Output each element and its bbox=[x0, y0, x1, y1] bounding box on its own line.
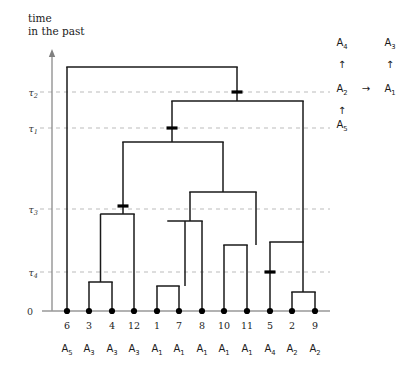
leaf-number-9: 9 bbox=[312, 320, 318, 331]
leaf-dot-7[interactable] bbox=[176, 308, 182, 314]
leaf-dot-8[interactable] bbox=[199, 308, 205, 314]
leaf-allele-9: A2 bbox=[309, 343, 320, 357]
allele-node-A1: A1 bbox=[384, 83, 395, 97]
leaf-dot-9[interactable] bbox=[312, 308, 318, 314]
leaf-dot-12[interactable] bbox=[131, 308, 137, 314]
dendrogram-figure: time in the past τ2τ1τ3τ4 0 6A53A34A312A… bbox=[0, 0, 406, 367]
leaf-dot-5[interactable] bbox=[267, 308, 273, 314]
leaf-number-1: 1 bbox=[154, 320, 160, 331]
leaf-number-10: 10 bbox=[218, 320, 230, 331]
allele-node-A5: A5 bbox=[336, 119, 347, 133]
leaf-number-4: 4 bbox=[109, 320, 115, 331]
leaf-dot-3[interactable] bbox=[86, 308, 92, 314]
leaf-allele-8: A1 bbox=[196, 343, 207, 357]
leaf-allele-12: A3 bbox=[128, 343, 139, 357]
mutations-group bbox=[118, 92, 276, 272]
arrow-a2-to-a1: → bbox=[362, 83, 370, 94]
tick-label-tau4: τ4 bbox=[29, 267, 38, 281]
arrow-a2-to-a4: ↑ bbox=[338, 59, 346, 70]
leaf-dot-1[interactable] bbox=[154, 308, 160, 314]
leaf-allele-3: A3 bbox=[83, 343, 94, 357]
leaf-dot-2[interactable] bbox=[289, 308, 295, 314]
tick-label-tau3: τ3 bbox=[29, 204, 38, 218]
leaf-number-7: 7 bbox=[176, 320, 182, 331]
leaf-dot-6[interactable] bbox=[64, 308, 70, 314]
tree-branches-group bbox=[66, 67, 316, 311]
allele-node-A3: A3 bbox=[384, 37, 395, 51]
allele-graph-group: A4A3A2A1A5↑↑↑→ bbox=[336, 37, 395, 133]
leaf-dot-11[interactable] bbox=[244, 308, 250, 314]
leaf-allele-11: A1 bbox=[241, 343, 252, 357]
leaf-allele-1: A1 bbox=[151, 343, 162, 357]
leaf-number-3: 3 bbox=[86, 320, 92, 331]
leaf-allele-2: A2 bbox=[286, 343, 297, 357]
allele-node-A4: A4 bbox=[336, 37, 347, 51]
tick-labels-group: τ2τ1τ3τ4 bbox=[29, 87, 38, 281]
leaf-number-2: 2 bbox=[289, 320, 295, 331]
tick-label-tau2: τ2 bbox=[29, 87, 38, 101]
leaf-allele-7: A1 bbox=[173, 343, 184, 357]
time-axis-arrowhead bbox=[49, 49, 55, 57]
leaf-allele-10: A1 bbox=[218, 343, 229, 357]
leaf-dot-4[interactable] bbox=[109, 308, 115, 314]
leaf-dot-10[interactable] bbox=[221, 308, 227, 314]
leaf-allele-5: A4 bbox=[264, 343, 275, 357]
leaf-allele-6: A5 bbox=[61, 343, 72, 357]
leaf-number-6: 6 bbox=[64, 320, 70, 331]
leaf-number-12: 12 bbox=[128, 320, 140, 331]
leaf-number-5: 5 bbox=[267, 320, 273, 331]
leaf-number-11: 11 bbox=[241, 320, 253, 331]
arrow-a1-to-a3: ↑ bbox=[386, 59, 394, 70]
axis-title-line2: in the past bbox=[28, 25, 85, 37]
allele-node-A2: A2 bbox=[336, 83, 347, 97]
leaf-allele-4: A3 bbox=[106, 343, 117, 357]
leaf-labels-group: 6A53A34A312A31A17A18A110A111A15A42A29A2 bbox=[61, 320, 320, 357]
tick-label-tau1: τ1 bbox=[29, 123, 38, 137]
tick-label-zero: 0 bbox=[27, 306, 33, 317]
coalescent-tree-svg: time in the past τ2τ1τ3τ4 0 6A53A34A312A… bbox=[0, 0, 406, 367]
axis-title-line1: time bbox=[28, 12, 52, 24]
leaf-number-8: 8 bbox=[199, 320, 205, 331]
arrow-a5-to-a2: ↑ bbox=[338, 105, 346, 116]
